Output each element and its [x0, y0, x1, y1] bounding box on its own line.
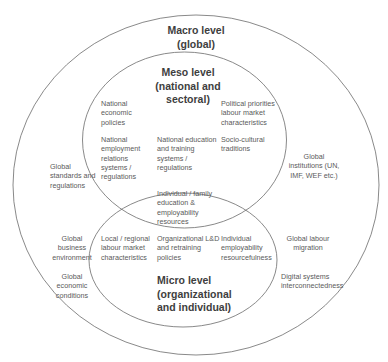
national-employment-relations: National employment relations systems / …	[101, 135, 140, 181]
global-institutions: Global institutions (UN, IMF, WEF etc.)	[282, 152, 346, 180]
socio-cultural-traditions: Socio-cultural traditions	[221, 135, 265, 154]
political-priorities: Political priorities labour market chara…	[221, 99, 275, 127]
macro-level-title: Macro level (global)	[146, 24, 246, 51]
global-labour-migration: Global labour migration	[282, 234, 334, 253]
digital-systems-interconnectedness: Digital systems interconnectedness	[281, 272, 343, 291]
micro-level-title: Micro level (organizational and individu…	[157, 274, 257, 315]
national-education-training: National education and training systems …	[157, 135, 217, 172]
local-regional-labour-market: Local / regional labour market character…	[101, 234, 150, 262]
global-business-environment: Global business environment	[44, 234, 100, 262]
individual-employability: Individual employability resourcefulness	[221, 234, 272, 262]
individual-family-resources: Individual / family education & employab…	[157, 189, 212, 226]
organizational-ld-policies: Organizational L&D and retraining polici…	[157, 234, 219, 262]
national-economic-policies: National economic policies	[101, 99, 132, 127]
global-standards-regulations: Global standards and regulations	[50, 162, 96, 190]
global-economic-conditions: Global economic conditions	[44, 272, 100, 300]
